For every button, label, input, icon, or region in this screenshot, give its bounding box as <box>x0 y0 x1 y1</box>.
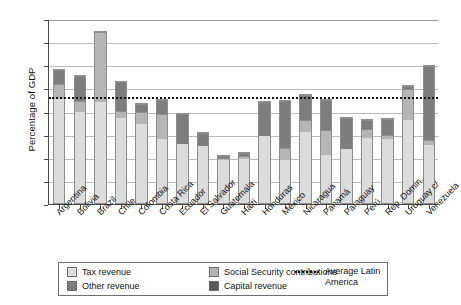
bar-chile <box>115 81 127 204</box>
bar-segment-tax <box>54 99 64 203</box>
bar-segment-other <box>259 102 269 136</box>
bar-segment-other <box>280 101 290 148</box>
bar-colombia <box>135 103 147 204</box>
y-axis-title: Percentage of GDP <box>26 30 37 190</box>
y-axis-tick-mark <box>44 205 48 206</box>
bar-segment-other <box>382 119 392 135</box>
gridline <box>49 43 438 44</box>
bar-segment-tax <box>116 118 126 203</box>
bar-segment-other <box>136 104 146 112</box>
bar-segment-other <box>54 70 64 84</box>
bar-segment-ssc <box>136 112 146 125</box>
bar-segment-other <box>321 100 331 130</box>
gridline <box>49 20 438 21</box>
legend-label-average: Average LatinAmerica <box>325 266 380 287</box>
bar-argentina <box>53 69 65 204</box>
bar-segment-ssc <box>157 114 167 139</box>
legend-swatch-capital-icon <box>209 281 219 291</box>
legend-item-tax[interactable]: Tax revenue <box>67 267 131 277</box>
legend-swatch-tax-icon <box>67 267 77 277</box>
legend-item-other[interactable]: Other revenue <box>67 281 140 291</box>
legend-swatch-ssc-icon <box>209 267 219 277</box>
legend-label: Capital revenue <box>224 281 287 291</box>
bar-segment-other <box>177 114 187 144</box>
bar-segment-tax <box>136 124 146 203</box>
bar-rep-domin <box>381 118 393 204</box>
legend-label: Other revenue <box>82 281 140 291</box>
bar-segment-ssc <box>362 129 372 138</box>
legend-item-average-line[interactable]: Average LatinAmerica <box>295 266 380 287</box>
bar-segment-tax <box>259 136 269 203</box>
bar-segment-other <box>157 100 167 114</box>
chart-legend: Tax revenueSocial Security contributions… <box>58 262 388 296</box>
bar-segment-ssc <box>280 148 290 161</box>
bar-segment-ssc <box>95 32 105 102</box>
plot-area <box>48 20 438 205</box>
bar-honduras <box>258 101 270 204</box>
bar-brazil <box>94 31 106 204</box>
gridline <box>49 113 438 114</box>
bar-segment-tax <box>382 139 392 203</box>
bar-segment-other <box>362 120 372 129</box>
bar-nicaragua <box>299 94 311 204</box>
bar-segment-ssc <box>321 130 331 155</box>
bar-segment-other <box>424 66 434 140</box>
legend-dotted-line-icon <box>295 271 319 273</box>
bar-segment-tax <box>95 102 105 203</box>
bar-segment-ssc <box>116 111 126 118</box>
gridline <box>49 66 438 67</box>
bar-segment-other <box>341 118 351 150</box>
legend-label: Tax revenue <box>82 267 131 277</box>
legend-item-capital[interactable]: Capital revenue <box>209 281 287 291</box>
gridline <box>49 89 438 90</box>
bar-segment-other <box>300 95 310 120</box>
average-reference-line <box>49 97 438 99</box>
bar-segment-ssc <box>403 89 413 120</box>
bar-segment-ssc <box>75 101 85 112</box>
bar-segment-other <box>198 133 208 146</box>
gridline <box>49 136 438 137</box>
bar-segment-ssc <box>300 120 310 131</box>
legend-swatch-other-icon <box>67 281 77 291</box>
